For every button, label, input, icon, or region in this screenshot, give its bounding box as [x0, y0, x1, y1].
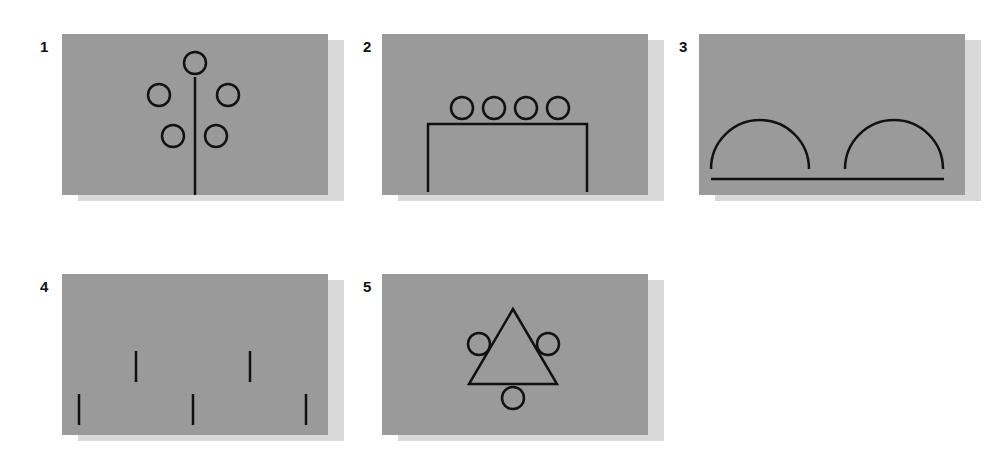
- panel-1: [62, 34, 328, 195]
- table-with-circles-icon: [382, 34, 648, 195]
- staggered-dashes-icon: [62, 274, 328, 435]
- panel-number-4: 4: [40, 279, 48, 294]
- panel-3-canvas: [699, 34, 965, 195]
- panel-2: [382, 34, 648, 195]
- triangle-with-circles-icon: [382, 274, 648, 435]
- panel-1-canvas: [62, 34, 328, 195]
- panel-5-canvas: [382, 274, 648, 435]
- panel-number-5: 5: [363, 279, 371, 294]
- panel-2-canvas: [382, 34, 648, 195]
- tree-shape-icon: [62, 34, 328, 195]
- panel-4-canvas: [62, 274, 328, 435]
- panel-3: [699, 34, 965, 195]
- semicircles-on-line-icon: [699, 34, 965, 195]
- panel-number-1: 1: [40, 39, 48, 54]
- panel-number-2: 2: [363, 39, 371, 54]
- panel-number-3: 3: [679, 39, 687, 54]
- panel-5: [382, 274, 648, 435]
- panel-4: [62, 274, 328, 435]
